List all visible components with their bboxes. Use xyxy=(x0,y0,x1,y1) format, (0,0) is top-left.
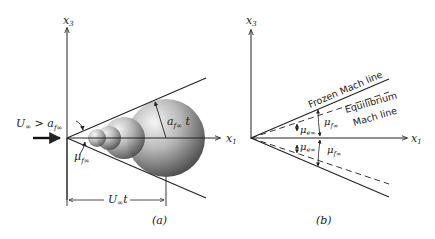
mu-f-lower-label: μf∞ xyxy=(327,144,341,158)
mach-angle-label-a: μf∞ xyxy=(74,150,90,165)
caption-a: (a) xyxy=(152,214,167,227)
mu-e-upper-label: μe∞ xyxy=(300,124,316,137)
frozen-mach-line-lower xyxy=(251,138,389,197)
freestream-condition-label: U∞ > af∞ xyxy=(16,117,62,132)
angle-pointer-upper xyxy=(76,121,83,130)
mu-f-lower-arrow xyxy=(318,140,320,166)
distance-label: U∞t xyxy=(108,193,128,207)
mu-f-upper-label: μf∞ xyxy=(324,116,338,130)
x3-label-a: x3 xyxy=(63,14,74,28)
mu-e-lower-label: μe∞ xyxy=(300,141,316,154)
mach-cone-diagram: x3 U∞ > af∞ μf∞ af∞ t U∞t (a) x1 x3 x1 F… xyxy=(0,0,435,239)
panel-b: x3 x1 Frozen Mach line Equilibrium Mach … xyxy=(246,14,422,227)
mu-f-upper-arrow xyxy=(318,110,320,136)
x1-label-b: x1 xyxy=(411,132,422,146)
x1-label-a: x1 xyxy=(226,132,237,146)
caption-b: (b) xyxy=(316,214,332,227)
x3-label-b: x3 xyxy=(246,14,257,28)
equilibrium-mach-line-lower xyxy=(251,138,389,184)
panel-a: x3 U∞ > af∞ μf∞ af∞ t U∞t (a) xyxy=(16,14,220,227)
